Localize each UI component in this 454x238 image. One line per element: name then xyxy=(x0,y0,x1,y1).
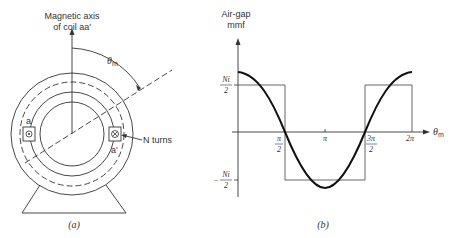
magnetic-axis-label-2: of coil aa' xyxy=(53,22,91,32)
square-wave-mmf xyxy=(238,85,412,180)
xtick-pi-over-2-den: 2 xyxy=(277,145,281,154)
theta-arc xyxy=(72,48,140,88)
ytick-pos-den: 2 xyxy=(224,86,228,95)
slot-a-prime-label: a' xyxy=(111,145,118,155)
magnetic-axis-label: Magnetic axis xyxy=(44,11,100,21)
ytick-neg-den: 2 xyxy=(224,181,228,190)
xtick-2pi: 2π xyxy=(406,134,415,143)
slot-a-label: a xyxy=(26,116,31,126)
angle-reference-line xyxy=(25,70,172,163)
ytick-neg-num: Ni xyxy=(221,170,230,179)
xtick-3pi-over-2-den: 2 xyxy=(369,145,373,154)
xtick-pi-over-2-num: π xyxy=(277,134,282,143)
n-turns-label: N turns xyxy=(143,135,173,145)
machine-diagram xyxy=(11,33,172,213)
machine-base xyxy=(22,185,126,213)
y-axis-label-2: mmf xyxy=(227,20,245,30)
y-axis-label: Air-gap xyxy=(221,9,250,19)
xtick-pi: π xyxy=(323,134,328,143)
caption-b: (b) xyxy=(317,219,329,231)
figure-canvas: Magnetic axis of coil aa' θm a a' N turn… xyxy=(0,0,454,238)
y-axis-arrowhead xyxy=(236,38,241,45)
x-axis-arrowhead xyxy=(423,130,430,135)
ytick-pos-num: Ni xyxy=(221,75,230,84)
n-turns-pointer xyxy=(126,136,142,140)
xtick-3pi-over-2-num: 3π xyxy=(366,134,376,143)
theta-label: θm xyxy=(107,55,118,67)
x-axis-label: θm xyxy=(433,126,444,138)
ytick-neg-sign: − xyxy=(213,176,218,185)
mmf-plot xyxy=(232,38,430,197)
caption-a: (a) xyxy=(68,219,80,231)
